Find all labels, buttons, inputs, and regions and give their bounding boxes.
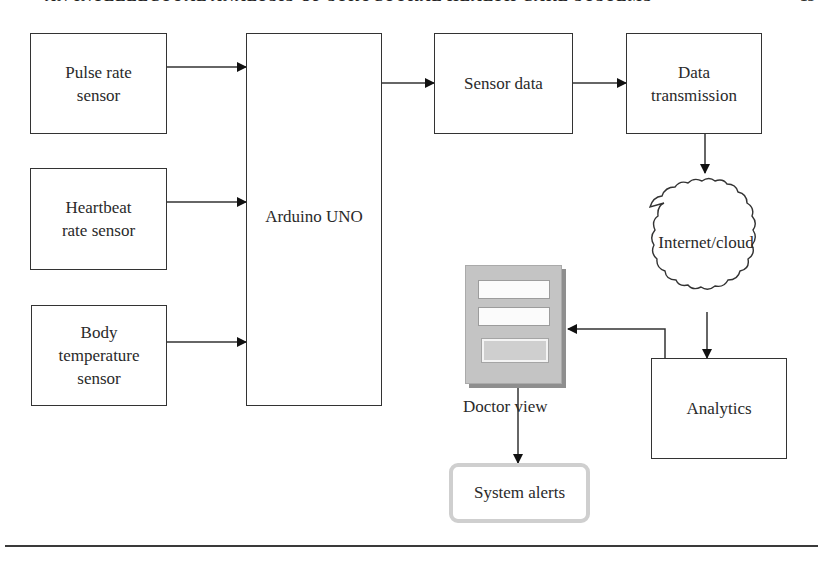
arduino-uno-label: Arduino UNO — [265, 205, 363, 228]
pulse-rate-sensor-box: Pulse rate sensor — [30, 33, 167, 134]
body-temperature-sensor-label: Body temperature sensor — [58, 321, 139, 390]
body-temperature-sensor-box: Body temperature sensor — [31, 305, 167, 406]
data-transmission-label: Data transmission — [651, 61, 737, 107]
form-button-icon — [482, 339, 548, 362]
pulse-rate-sensor-label: Pulse rate sensor — [65, 61, 132, 107]
form-field-icon — [478, 280, 550, 299]
sensor-data-label: Sensor data — [464, 72, 543, 95]
system-alerts-box: System alerts — [449, 463, 590, 523]
analytics-box: Analytics — [651, 358, 787, 459]
analytics-label: Analytics — [686, 397, 751, 420]
doctor-view-icon — [465, 265, 562, 384]
data-transmission-box: Data transmission — [626, 33, 762, 134]
heartbeat-rate-sensor-label: Heartbeat rate sensor — [62, 196, 135, 242]
page-bottom-rule — [5, 545, 818, 547]
arduino-uno-box: Arduino UNO — [246, 33, 382, 406]
form-field-icon — [478, 307, 550, 326]
sensor-data-box: Sensor data — [434, 33, 573, 134]
internet-cloud-label: Internet/cloud — [648, 233, 764, 253]
heartbeat-rate-sensor-box: Heartbeat rate sensor — [30, 168, 167, 270]
doctor-view-label: Doctor view — [463, 397, 548, 417]
system-alerts-label: System alerts — [474, 483, 565, 503]
